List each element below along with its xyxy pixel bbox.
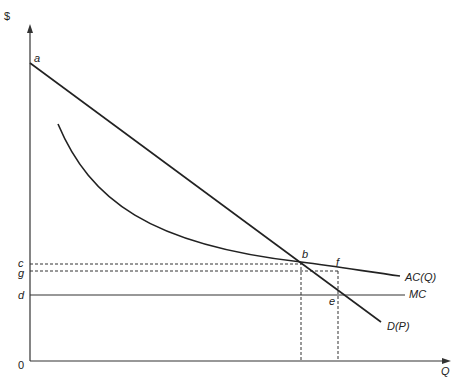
- x-axis-label: Q: [441, 365, 450, 377]
- point-e-label: e: [329, 295, 335, 307]
- point-d-label: d: [18, 289, 25, 301]
- diagram-canvas: $ Q 0 a b c g d e f AC(Q) MC D(P): [0, 0, 455, 391]
- dashed-guides: [30, 262, 338, 361]
- point-a-label: a: [34, 52, 40, 64]
- demand-curve-label: D(P): [387, 320, 410, 332]
- ac-curve: [58, 124, 400, 276]
- demand-curve: [30, 63, 381, 322]
- point-b-label: b: [302, 248, 308, 260]
- point-g-label: g: [18, 267, 25, 279]
- x-axis-arrow-icon: [442, 358, 451, 364]
- axes: [27, 24, 451, 364]
- y-axis-arrow-icon: [27, 24, 33, 33]
- point-f-label: f: [336, 256, 340, 268]
- y-axis-label: $: [4, 10, 10, 22]
- mc-curve-label: MC: [409, 288, 426, 300]
- origin-label: 0: [18, 359, 24, 371]
- ac-curve-label: AC(Q): [404, 271, 437, 283]
